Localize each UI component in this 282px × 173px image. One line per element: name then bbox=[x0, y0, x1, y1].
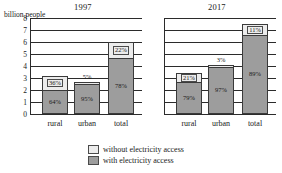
grid-line bbox=[30, 18, 142, 19]
grid-line bbox=[164, 18, 276, 19]
chart-legend: without electricity access with electric… bbox=[88, 145, 184, 167]
grid-line bbox=[30, 114, 142, 115]
stacked-bar[interactable]: 22%78% bbox=[108, 42, 134, 114]
y-tick-label: 2 bbox=[13, 86, 27, 95]
bar-label-without: 11% bbox=[247, 26, 263, 35]
grid-line bbox=[164, 114, 276, 115]
bar-segment-with[interactable]: 78% bbox=[109, 58, 133, 113]
bar-label-without-outside: 5% bbox=[74, 73, 100, 80]
bar-label-with: 89% bbox=[249, 71, 261, 78]
grid-line bbox=[30, 30, 142, 31]
bar-segment-with[interactable]: 97% bbox=[209, 67, 233, 113]
y-tick-label: 6 bbox=[13, 38, 27, 47]
plot-area-2017: 21%79%97%3%11%89% bbox=[164, 18, 276, 114]
y-tick-label: 5 bbox=[13, 50, 27, 59]
bar-segment-with[interactable]: 79% bbox=[177, 82, 201, 113]
stacked-bar[interactable]: 36%64% bbox=[42, 76, 68, 114]
stacked-bar[interactable]: 95% bbox=[74, 82, 100, 114]
legend-item-with: with electricity access bbox=[88, 156, 184, 165]
stacked-bar[interactable]: 97% bbox=[208, 65, 234, 114]
legend-label-with: with electricity access bbox=[103, 156, 174, 165]
bar-segment-with[interactable]: 89% bbox=[243, 35, 267, 113]
chart-panel-1997: 01234567836%64%95%5%22%78% ruralurbantot… bbox=[30, 18, 142, 128]
bar-label-without: 21% bbox=[181, 74, 197, 83]
stacked-bar[interactable]: 21%79% bbox=[176, 73, 202, 114]
y-tick-label: 0 bbox=[13, 110, 27, 119]
bar-label-without: 36% bbox=[47, 79, 63, 88]
y-tick-label: 3 bbox=[13, 74, 27, 83]
legend-swatch-without-icon bbox=[88, 145, 99, 154]
bar-segment-with[interactable]: 95% bbox=[75, 84, 99, 113]
plot-area-1997: 01234567836%64%95%5%22%78% bbox=[30, 18, 142, 114]
bar-label-with: 95% bbox=[81, 96, 93, 103]
bar-label-with: 97% bbox=[215, 87, 227, 94]
legend-swatch-with-icon bbox=[88, 156, 99, 165]
bar-segment-with[interactable]: 64% bbox=[43, 90, 67, 113]
chart-panel-2017: 21%79%97%3%11%89% ruralurbantotal bbox=[164, 18, 276, 128]
bar-label-with: 64% bbox=[49, 99, 61, 106]
legend-item-without: without electricity access bbox=[88, 145, 184, 154]
y-tick-label: 1 bbox=[13, 98, 27, 107]
y-tick-label: 8 bbox=[13, 14, 27, 23]
panel-title-1997: 1997 bbox=[74, 2, 92, 12]
x-category-label-total: total bbox=[101, 119, 141, 128]
bar-label-with: 79% bbox=[183, 95, 195, 102]
chart-canvas: billion people 1997 2017 01234567836%64%… bbox=[0, 0, 282, 173]
y-tick-label: 7 bbox=[13, 26, 27, 35]
bar-label-without-outside: 3% bbox=[208, 56, 234, 63]
bar-segment-without[interactable]: 22% bbox=[109, 43, 133, 58]
legend-label-without: without electricity access bbox=[103, 145, 184, 154]
y-tick-label: 4 bbox=[13, 62, 27, 71]
stacked-bar[interactable]: 11%89% bbox=[242, 24, 268, 114]
panel-title-2017: 2017 bbox=[208, 2, 226, 12]
bar-label-with: 78% bbox=[115, 83, 127, 90]
bar-segment-without[interactable]: 11% bbox=[243, 25, 267, 35]
bar-segment-without[interactable]: 36% bbox=[43, 77, 67, 90]
x-category-label-total: total bbox=[235, 119, 275, 128]
bar-segment-without[interactable]: 21% bbox=[177, 74, 201, 83]
bar-label-without: 22% bbox=[113, 46, 129, 55]
